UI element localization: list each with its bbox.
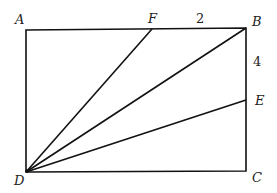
label-b: B: [251, 14, 262, 29]
segment-de: [26, 100, 246, 172]
point-d-dot: [25, 169, 29, 173]
diagram-canvas: A F B E C D 2 4: [0, 0, 277, 193]
geometry-diagram: A F B E C D 2 4: [0, 0, 277, 193]
segment-db: [26, 28, 246, 172]
measure-be: 4: [253, 54, 261, 69]
label-c: C: [252, 170, 262, 185]
label-a: A: [14, 12, 24, 27]
label-d: D: [13, 173, 25, 188]
label-f: F: [147, 11, 158, 26]
measure-fb: 2: [196, 11, 204, 26]
label-e: E: [254, 93, 265, 108]
